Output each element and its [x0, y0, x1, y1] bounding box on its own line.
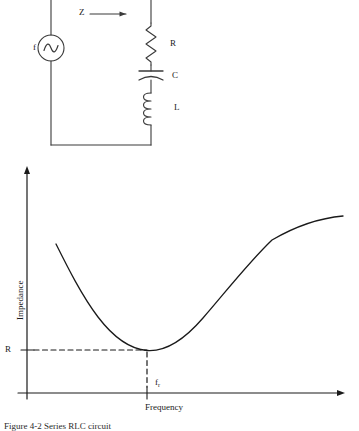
x-axis-label: Frequency [145, 403, 183, 412]
figure-root: f Z R C L Impedance R fr Frequency [0, 0, 359, 431]
resonant-frequency-subscript: r [158, 382, 160, 388]
y-axis-arrowhead [24, 166, 30, 174]
resistance-level-label: R [5, 345, 11, 354]
figure-caption: Figure 4-2 Series RLC circuit [4, 421, 356, 431]
impedance-frequency-plot [0, 0, 359, 431]
y-axis-label: Impedance [16, 281, 25, 320]
resonant-frequency-label: fr [155, 378, 160, 387]
impedance-curve [56, 216, 343, 351]
x-axis-arrowhead [337, 390, 345, 396]
